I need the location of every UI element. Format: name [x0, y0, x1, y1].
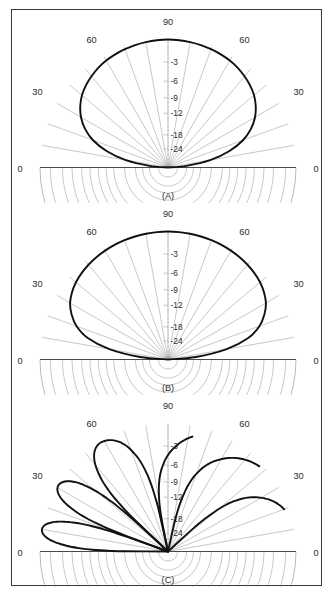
- panel-caption: (C): [162, 575, 175, 585]
- radial-tick-label: -12: [171, 108, 183, 118]
- angle-tick-label: 0: [17, 356, 22, 366]
- angle-tick-label: 30: [32, 87, 42, 97]
- panel-caption: (A): [162, 191, 174, 201]
- radial-tick-label: -12: [171, 300, 183, 310]
- panel-c: 030609060300-3-6-9-12-18-24(C): [12, 395, 323, 587]
- panel-caption: (B): [162, 383, 174, 393]
- polar-plot-b: 030609060300-3-6-9-12-18-24(B): [12, 203, 323, 395]
- angle-tick-label: 30: [293, 471, 303, 481]
- angle-tick-label: 60: [239, 227, 249, 237]
- angle-tick-label: 0: [313, 356, 318, 366]
- angle-tick-label: 60: [239, 419, 249, 429]
- angle-tick-label: 90: [163, 17, 173, 27]
- polar-plot-c: 030609060300-3-6-9-12-18-24(C): [12, 395, 323, 587]
- panel-a: 030609060300-3-6-9-12-18-24(A): [12, 11, 323, 203]
- radial-tick-label: -18: [171, 130, 183, 140]
- pattern-curve: [168, 497, 284, 551]
- angle-tick-label: 90: [163, 209, 173, 219]
- angle-tick-label: 90: [163, 401, 173, 411]
- angle-tick-label: 60: [86, 35, 96, 45]
- radial-tick-label: -3: [171, 249, 179, 259]
- radial-tick-label: -24: [171, 144, 183, 154]
- angle-tick-label: 30: [32, 279, 42, 289]
- radial-tick-label: -6: [171, 76, 179, 86]
- polar-plot-a: 030609060300-3-6-9-12-18-24(A): [12, 11, 323, 203]
- angle-tick-label: 0: [17, 164, 22, 174]
- radial-tick-label: -18: [171, 322, 183, 332]
- pattern-curve: [57, 481, 168, 551]
- radial-tick-label: -9: [171, 93, 179, 103]
- radial-tick-label: -3: [171, 57, 179, 67]
- angle-tick-label: 60: [86, 227, 96, 237]
- figure-border: 030609060300-3-6-9-12-18-24(A) 030609060…: [11, 9, 322, 586]
- radial-tick-label: -24: [171, 336, 183, 346]
- angle-tick-label: 30: [32, 471, 42, 481]
- angle-tick-label: 0: [313, 164, 318, 174]
- pattern-curve: [94, 440, 168, 551]
- radial-tick-label: -6: [171, 460, 179, 470]
- angle-tick-label: 0: [313, 548, 318, 558]
- angle-tick-label: 30: [293, 87, 303, 97]
- angle-tick-label: 60: [86, 419, 96, 429]
- panel-b: 030609060300-3-6-9-12-18-24(B): [12, 203, 323, 395]
- radial-tick-label: -9: [171, 477, 179, 487]
- radial-tick-label: -9: [171, 285, 179, 295]
- angle-tick-label: 60: [239, 35, 249, 45]
- angle-tick-label: 0: [17, 548, 22, 558]
- angle-tick-label: 30: [293, 279, 303, 289]
- pattern-curve: [42, 522, 168, 552]
- figure-root: 030609060300-3-6-9-12-18-24(A) 030609060…: [0, 0, 334, 596]
- radial-tick-label: -6: [171, 268, 179, 278]
